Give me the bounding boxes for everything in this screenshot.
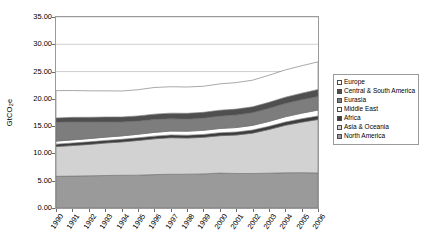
x-axis-tick-mark [236, 209, 237, 212]
legend-item[interactable]: Europe [337, 78, 415, 87]
x-axis-tick-mark [318, 209, 319, 212]
legend-label: Europe [344, 79, 365, 86]
legend-label: North America [344, 133, 385, 140]
legend-swatch [337, 107, 342, 112]
legend-label: Eurasia [344, 97, 366, 104]
legend-item[interactable]: North America [337, 132, 415, 141]
legend-label: Middle East [344, 106, 378, 113]
x-axis-tick-mark [89, 209, 90, 212]
x-axis-tick-mark [203, 209, 204, 212]
legend-item[interactable]: Eurasia [337, 96, 415, 105]
x-axis-tick-mark [171, 209, 172, 212]
legend-item[interactable]: Africa [337, 114, 415, 123]
x-axis-tick-mark [302, 209, 303, 212]
x-axis-tick-mark [220, 209, 221, 212]
x-axis-tick-mark [72, 209, 73, 212]
x-axis-tick-mark [154, 209, 155, 212]
legend-label: Central & South America [344, 88, 415, 95]
legend-item[interactable]: Central & South America [337, 87, 415, 96]
chart-legend: EuropeCentral & South AmericaEurasiaMidd… [333, 74, 419, 145]
legend-swatch [337, 116, 342, 121]
legend-label: Africa [344, 115, 361, 122]
legend-label: Asia & Oceania [344, 124, 389, 131]
x-axis-tick-mark [285, 209, 286, 212]
x-axis-tick-mark [56, 209, 57, 212]
x-axis-tick-mark [187, 209, 188, 212]
x-axis-tick-mark [138, 209, 139, 212]
legend-swatch [337, 89, 342, 94]
legend-swatch [337, 125, 342, 130]
x-axis-tick-mark [253, 209, 254, 212]
x-axis-tick-mark [269, 209, 270, 212]
legend-item[interactable]: Asia & Oceania [337, 123, 415, 132]
legend-swatch [337, 80, 342, 85]
legend-swatch [337, 98, 342, 103]
legend-item[interactable]: Middle East [337, 105, 415, 114]
stacked-area-chart: GtCO2e 35.0030.0025.0020.0015.0010.005.0… [0, 0, 444, 248]
legend-swatch [337, 134, 342, 139]
x-axis-tick-mark [105, 209, 106, 212]
x-axis-tick-mark [122, 209, 123, 212]
